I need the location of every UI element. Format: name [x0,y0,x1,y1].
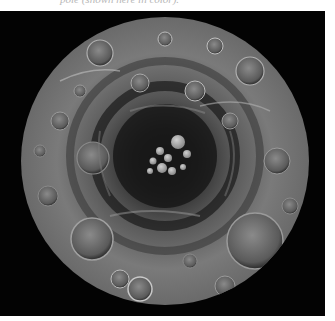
figure-caption: pole (shown here in color). [60,0,179,5]
moon-disk-graphic [0,11,325,316]
moon-south-pole-image [0,11,325,316]
